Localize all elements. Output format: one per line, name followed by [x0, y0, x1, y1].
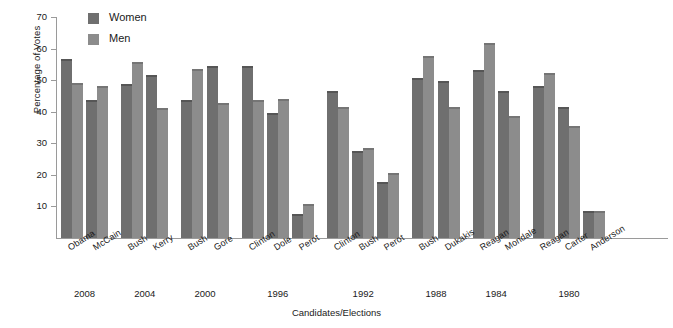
- bar-front-face: [412, 80, 423, 238]
- bar-front-face: [207, 68, 218, 238]
- x-axis-year-label: 1996: [248, 288, 308, 299]
- bar-front-face: [278, 101, 289, 238]
- bar-front-face: [509, 118, 520, 238]
- plot-area: 10203040506070: [56, 17, 668, 238]
- bar-women: [412, 80, 423, 238]
- bar-men: [363, 150, 374, 238]
- bar-men: [157, 110, 168, 238]
- bar-women: [146, 77, 157, 238]
- bar-front-face: [423, 58, 434, 238]
- bar-women: [438, 83, 449, 238]
- bar-front-face: [97, 88, 108, 238]
- y-axis-tick-label: 40: [23, 107, 47, 116]
- bar-front-face: [388, 175, 399, 238]
- y-axis-tick-label: 20: [23, 170, 47, 179]
- bar-front-face: [327, 93, 338, 238]
- bar-men: [218, 105, 229, 238]
- bar-women: [533, 88, 544, 238]
- bar-chart: Percentage of Votes 10203040506070 Women…: [0, 0, 673, 328]
- y-axis-tick-label: 10: [23, 201, 47, 210]
- bar-women: [121, 86, 132, 238]
- bar-front-face: [449, 109, 460, 238]
- bar-men: [484, 45, 495, 238]
- bar-men: [338, 109, 349, 238]
- bar-men: [509, 118, 520, 238]
- y-axis-tick: [51, 206, 56, 207]
- legend-label: Men: [109, 32, 130, 44]
- bar-front-face: [292, 216, 303, 238]
- bar-men: [544, 75, 555, 238]
- bar-front-face: [61, 61, 72, 238]
- y-axis-line: [56, 17, 57, 239]
- men-swatch: [88, 34, 99, 45]
- bar-women: [352, 153, 363, 238]
- x-axis-year-label: 1988: [406, 288, 466, 299]
- women-swatch: [88, 13, 99, 24]
- bar-men: [132, 64, 143, 238]
- y-axis-tick: [51, 175, 56, 176]
- x-axis-year-label: 2004: [115, 288, 175, 299]
- bar-men: [278, 101, 289, 238]
- bar-front-face: [253, 102, 264, 238]
- bar-men: [253, 102, 264, 238]
- x-axis-year-label: 1980: [539, 288, 599, 299]
- y-axis-tick-label: 50: [23, 75, 47, 84]
- x-axis-year-label: 2000: [175, 288, 235, 299]
- bar-front-face: [72, 85, 83, 238]
- y-axis-tick: [51, 49, 56, 50]
- bar-front-face: [242, 68, 253, 238]
- bar-women: [377, 184, 388, 238]
- x-axis-year-label: 1984: [466, 288, 526, 299]
- bar-front-face: [121, 86, 132, 238]
- x-axis-year-label: 2008: [55, 288, 115, 299]
- y-axis-tick-label: 70: [23, 12, 47, 21]
- y-axis-tick: [51, 143, 56, 144]
- bar-women: [207, 68, 218, 238]
- bar-women: [86, 102, 97, 238]
- bar-front-face: [438, 83, 449, 238]
- bar-front-face: [86, 102, 97, 238]
- bar-front-face: [473, 72, 484, 238]
- bar-men: [72, 85, 83, 238]
- bar-men: [388, 175, 399, 238]
- y-axis-tick-label: 30: [23, 138, 47, 147]
- bar-women: [61, 61, 72, 238]
- bar-front-face: [498, 93, 509, 238]
- bar-men: [569, 128, 580, 239]
- bar-front-face: [363, 150, 374, 238]
- bar-men: [97, 88, 108, 238]
- bar-women: [498, 93, 509, 238]
- bar-women: [267, 115, 278, 238]
- bar-front-face: [267, 115, 278, 238]
- bar-front-face: [192, 71, 203, 238]
- bar-front-face: [132, 64, 143, 238]
- bar-front-face: [558, 109, 569, 238]
- bar-front-face: [377, 184, 388, 238]
- bar-men: [449, 109, 460, 238]
- bar-front-face: [544, 75, 555, 238]
- bar-women: [473, 72, 484, 238]
- bar-front-face: [218, 105, 229, 238]
- bar-front-face: [533, 88, 544, 238]
- bar-front-face: [157, 110, 168, 238]
- y-axis-tick: [51, 80, 56, 81]
- x-axis-year-label: 1992: [333, 288, 393, 299]
- bar-women: [181, 102, 192, 238]
- y-axis-tick: [51, 112, 56, 113]
- bar-women: [327, 93, 338, 238]
- y-axis-tick-label: 60: [23, 44, 47, 53]
- legend-label: Women: [109, 11, 147, 23]
- bar-front-face: [352, 153, 363, 238]
- bar-front-face: [569, 128, 580, 239]
- bar-women: [558, 109, 569, 238]
- x-axis-title: Candidates/Elections: [0, 307, 673, 318]
- bar-women: [242, 68, 253, 238]
- bar-front-face: [181, 102, 192, 238]
- y-axis-tick: [51, 17, 56, 18]
- bar-men: [423, 58, 434, 238]
- bar-front-face: [484, 45, 495, 238]
- bar-front-face: [338, 109, 349, 238]
- bar-front-face: [146, 77, 157, 238]
- bar-women: [292, 216, 303, 238]
- bar-men: [192, 71, 203, 238]
